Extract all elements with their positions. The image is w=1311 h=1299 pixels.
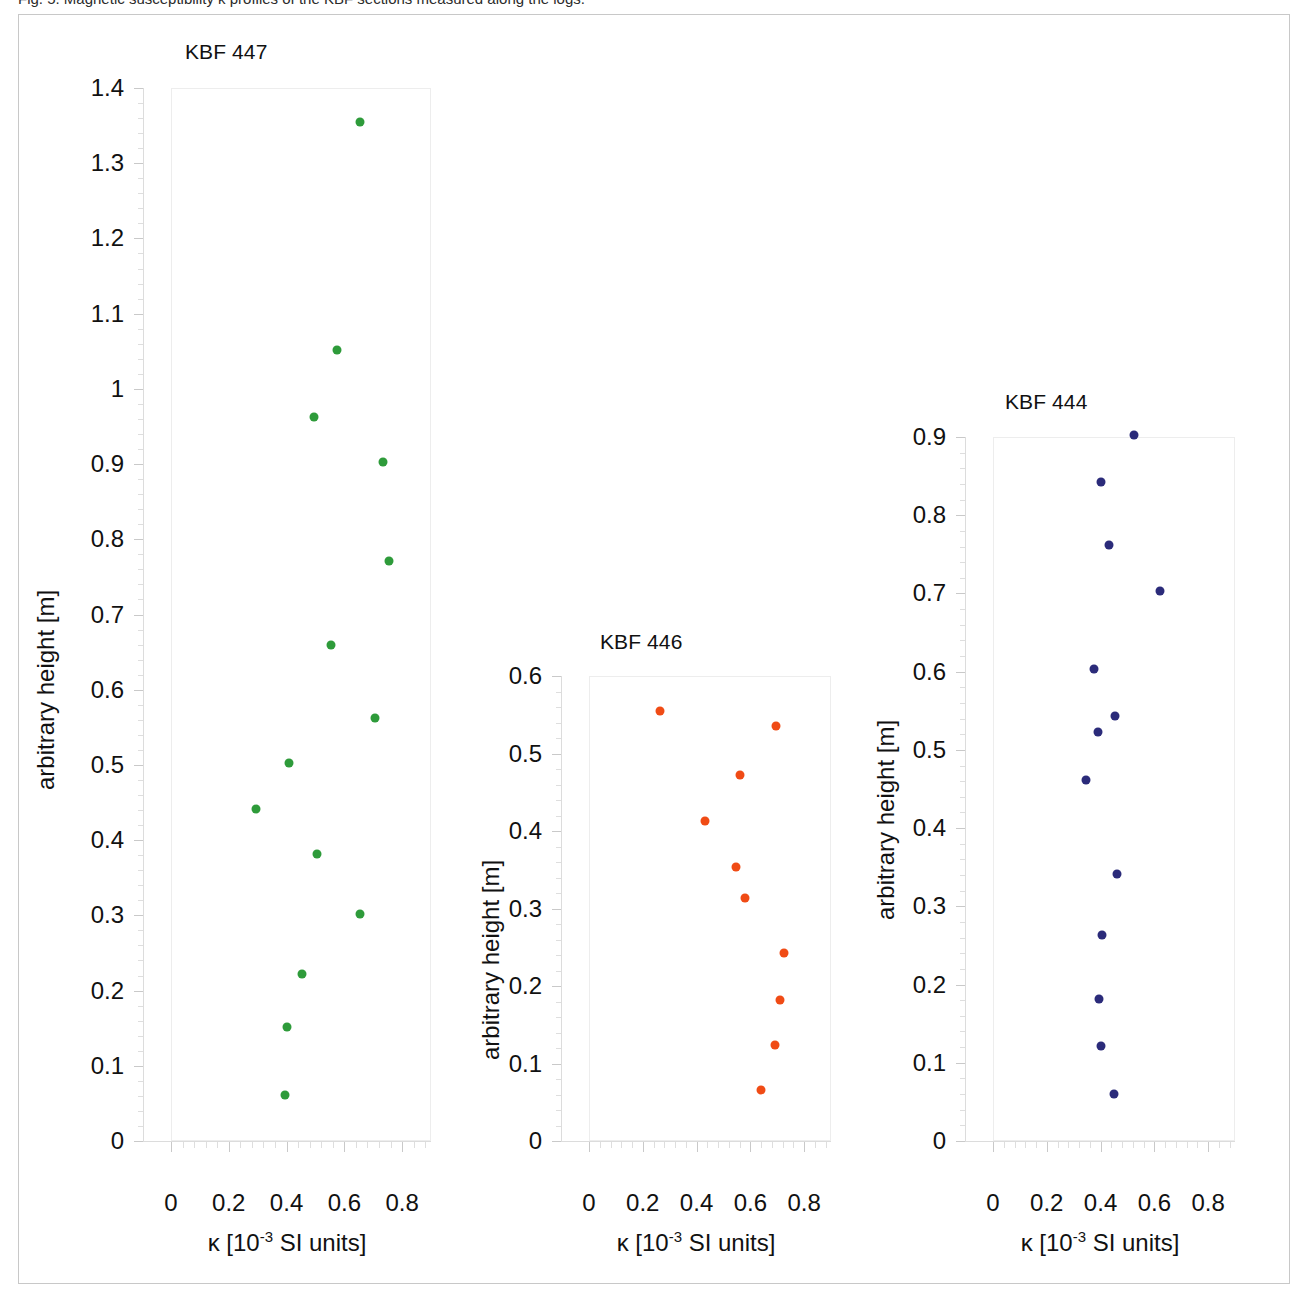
y-minor-tick-1-2-1 [556, 971, 561, 972]
data-point-2-3 [1155, 587, 1164, 596]
x-minor-tick-1-0-3 [621, 1142, 622, 1148]
x-tick-1-1 [643, 1142, 644, 1152]
y-minor-tick-2-1-1 [960, 1047, 965, 1048]
x-minor-tick-1-2-1 [707, 1142, 708, 1148]
x-minor-tick-0-3-4 [391, 1142, 392, 1148]
x-minor-tick-0-0-4 [217, 1142, 218, 1148]
y-minor-tick-0-8-4 [138, 479, 143, 480]
y-minor-tick-1-4-1 [556, 816, 561, 817]
y-minor-tick-2-2-1 [960, 969, 965, 970]
x-tick-1-2 [697, 1142, 698, 1152]
x-minor-tick-1-2-2 [718, 1142, 719, 1148]
y-minor-tick-2-4-3 [960, 781, 965, 782]
data-point-2-9 [1097, 931, 1106, 940]
y-tick-0-3 [134, 915, 143, 916]
y-minor-tick-2-3-3 [960, 859, 965, 860]
x-minor-tick-2-1-1 [1058, 1142, 1059, 1148]
y-minor-tick-0-3-1 [138, 900, 143, 901]
y-minor-tick-1-1-1 [556, 1048, 561, 1049]
x-minor-tick-1-0-2 [611, 1142, 612, 1148]
y-minor-tick-0-2-3 [138, 945, 143, 946]
x-tick-2-4 [1208, 1142, 1209, 1152]
y-minor-tick-0-12-4 [138, 178, 143, 179]
y-minor-tick-0-11-1 [138, 299, 143, 300]
y-tick-label-2-7: 0.7 [858, 579, 946, 607]
y-minor-tick-0-12-1 [138, 223, 143, 224]
data-point-1-2 [735, 771, 744, 780]
x-minor-tick-0-1-4 [275, 1142, 276, 1148]
x-tick-label-1-3: 0.6 [734, 1189, 767, 1217]
y-minor-tick-0-8-3 [138, 494, 143, 495]
y-minor-tick-1-0-2 [556, 1110, 561, 1111]
x-minor-tick-2-3-3 [1187, 1142, 1188, 1148]
y-minor-tick-0-10-3 [138, 344, 143, 345]
x-tick-2-1 [1047, 1142, 1048, 1152]
data-point-1-7 [775, 995, 784, 1004]
y-tick-label-1-0: 0 [454, 1127, 542, 1155]
data-point-0-8 [252, 805, 261, 814]
y-minor-tick-1-4-4 [556, 769, 561, 770]
x-minor-tick-2-3-4 [1197, 1142, 1198, 1148]
y-tick-label-0-4: 0.4 [36, 826, 124, 854]
y-minor-tick-2-8-3 [960, 468, 965, 469]
y-minor-tick-0-13-3 [138, 118, 143, 119]
x-minor-tick-2-0-3 [1025, 1142, 1026, 1148]
x-minor-tick-2-1-2 [1068, 1142, 1069, 1148]
y-minor-tick-0-9-1 [138, 449, 143, 450]
y-minor-tick-2-5-2 [960, 719, 965, 720]
data-point-0-6 [370, 714, 379, 723]
y-minor-tick-2-8-2 [960, 484, 965, 485]
y-tick-0-12 [134, 238, 143, 239]
y-tick-label-0-12: 1.2 [36, 224, 124, 252]
x-axis-title-0: κ [10-3 SI units] [208, 1229, 367, 1257]
y-tick-label-1-4: 0.4 [454, 817, 542, 845]
x-minor-tick-2-0-4 [1036, 1142, 1037, 1148]
x-tick-0-4 [402, 1142, 403, 1152]
y-tick-1-3 [552, 909, 561, 910]
x-tick-label-0-4: 0.8 [385, 1189, 418, 1217]
y-tick-label-0-8: 0.8 [36, 525, 124, 553]
y-minor-tick-1-2-2 [556, 955, 561, 956]
x-minor-tick-0-2-2 [310, 1142, 311, 1148]
x-axis-title-exponent-0: -3 [260, 1228, 273, 1245]
y-tick-0-14 [134, 88, 143, 89]
y-tick-1-4 [552, 831, 561, 832]
y-axis-title-1: arbitrary height [m] [477, 860, 505, 1060]
y-minor-tick-1-5-3 [556, 707, 561, 708]
y-minor-tick-2-1-4 [960, 1000, 965, 1001]
y-minor-tick-2-0-4 [960, 1078, 965, 1079]
y-tick-label-1-5: 0.5 [454, 740, 542, 768]
y-minor-tick-1-5-1 [556, 738, 561, 739]
plot-area-1 [589, 676, 831, 1141]
x-minor-tick-1-1-1 [654, 1142, 655, 1148]
y-minor-tick-0-3-2 [138, 885, 143, 886]
y-minor-tick-1-3-2 [556, 878, 561, 879]
y-tick-label-2-0: 0 [858, 1127, 946, 1155]
y-minor-tick-0-11-3 [138, 269, 143, 270]
y-tick-2-0 [956, 1141, 965, 1142]
data-point-2-1 [1096, 477, 1105, 486]
x-minor-tick-1-1-3 [675, 1142, 676, 1148]
x-tick-label-2-3: 0.6 [1138, 1189, 1171, 1217]
y-minor-tick-2-4-4 [960, 766, 965, 767]
y-tick-2-3 [956, 906, 965, 907]
x-minor-tick-1-3-2 [772, 1142, 773, 1148]
x-minor-tick-0-4-2 [425, 1142, 426, 1148]
plot-area-2 [993, 437, 1235, 1141]
y-axis-spine-2 [965, 437, 966, 1141]
y-minor-tick-1-0-3 [556, 1095, 561, 1096]
x-axis-title-suffix-2: SI units] [1086, 1229, 1179, 1256]
y-minor-tick-2-3-1 [960, 891, 965, 892]
y-tick-2-8 [956, 515, 965, 516]
y-tick-0-6 [134, 690, 143, 691]
y-tick-label-0-10: 1 [36, 375, 124, 403]
data-point-1-3 [700, 816, 709, 825]
x-minor-tick-1-3-1 [761, 1142, 762, 1148]
y-tick-2-5 [956, 750, 965, 751]
y-minor-tick-2-3-2 [960, 875, 965, 876]
data-point-2-0 [1130, 430, 1139, 439]
x-tick-2-0 [993, 1142, 994, 1152]
y-minor-tick-1-5-2 [556, 723, 561, 724]
y-minor-tick-0-9-4 [138, 404, 143, 405]
x-minor-tick-1-2-3 [729, 1142, 730, 1148]
